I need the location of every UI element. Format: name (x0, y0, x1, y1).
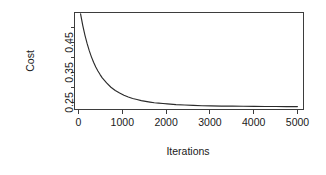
x-tick-label-0: 0 (76, 116, 82, 128)
x-tick-label-1000: 1000 (111, 116, 135, 128)
chart-figure: 0.25 0.35 0.45 0 1000 2000 3000 4000 500… (0, 0, 326, 175)
chart-canvas: 0.25 0.35 0.45 0 1000 2000 3000 4000 500… (0, 0, 326, 175)
x-tick-label-2000: 2000 (154, 116, 178, 128)
y-tick-labels: 0.25 0.35 0.45 (63, 32, 75, 113)
x-tick-label-4000: 4000 (242, 116, 266, 128)
x-tick-label-3000: 3000 (198, 116, 222, 128)
y-axis-title: Cost (24, 50, 36, 72)
chart-background (0, 0, 326, 175)
y-tick-label-0.45: 0.45 (63, 32, 75, 53)
y-tick-label-0.35: 0.35 (63, 62, 75, 83)
x-axis-title: Iterations (166, 145, 209, 157)
x-tick-label-5000: 5000 (286, 116, 310, 128)
y-tick-label-0.25: 0.25 (63, 92, 75, 113)
